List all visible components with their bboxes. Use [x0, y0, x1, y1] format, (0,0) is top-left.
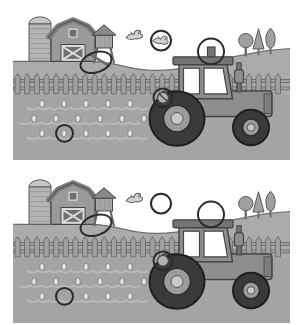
- barn-loft-window: [69, 29, 77, 37]
- tractor-grille: [264, 94, 272, 114]
- crop-sprout: [128, 130, 133, 137]
- fence-picket: [83, 237, 88, 257]
- crop-sprout: [84, 263, 89, 270]
- round-tree: [239, 33, 253, 47]
- crop-sprout: [128, 293, 133, 300]
- fence-picket: [63, 74, 68, 94]
- front-wheel-center: [247, 287, 255, 295]
- cab-rear-window: [184, 231, 200, 257]
- barn-loft-window: [69, 192, 77, 200]
- crop-sprout: [76, 278, 81, 285]
- crop-sprout: [84, 130, 89, 137]
- farm-scene-original: [13, 8, 290, 160]
- crop-sprout: [40, 130, 45, 137]
- cab-roof-stub: [208, 47, 216, 57]
- cab-rear-window: [184, 68, 200, 94]
- cab-front-window: [204, 68, 228, 94]
- fence-picket: [111, 237, 116, 257]
- silo: [29, 180, 51, 224]
- crop-sprout: [120, 278, 125, 285]
- cab-front-window: [204, 231, 228, 257]
- crop-sprout: [32, 115, 37, 122]
- crop-sprout: [106, 100, 111, 107]
- front-wheel-center: [247, 124, 255, 132]
- crop-sprout: [128, 100, 133, 107]
- crop-sprout: [32, 278, 37, 285]
- water-tower-tank: [96, 35, 113, 48]
- crop-sprout: [98, 115, 103, 122]
- fence-picket: [25, 74, 30, 94]
- fence-picket: [275, 74, 280, 94]
- crop-sprout: [62, 263, 67, 270]
- fence-picket: [150, 237, 155, 257]
- tree-trunk: [270, 210, 272, 217]
- fence-picket: [15, 74, 20, 94]
- crop-sprout: [106, 293, 111, 300]
- crop-sprout: [62, 130, 67, 137]
- tree-trunk: [270, 47, 272, 54]
- spot-the-difference-puzzle: [0, 0, 301, 325]
- crop-sprout: [40, 293, 45, 300]
- tractor-grille: [264, 257, 272, 277]
- fence-picket: [275, 237, 280, 257]
- fence-picket: [34, 74, 39, 94]
- fence-picket: [34, 237, 39, 257]
- puzzle-panel-top: [13, 8, 290, 160]
- fence-picket: [44, 237, 49, 257]
- crop-sprout: [142, 278, 147, 285]
- fence-picket: [150, 74, 155, 94]
- fence-picket: [121, 74, 126, 94]
- fence-picket: [54, 74, 59, 94]
- fence-picket: [102, 74, 107, 94]
- crop-sprout: [62, 100, 67, 107]
- tree-trunk: [245, 210, 248, 219]
- water-tower-tank: [96, 198, 113, 211]
- round-tree: [239, 196, 253, 210]
- exhaust-pipe: [237, 83, 241, 92]
- barn: [48, 183, 99, 224]
- tree-trunk: [258, 48, 260, 55]
- crop-sprout: [120, 115, 125, 122]
- exhaust-muffler: [235, 70, 244, 84]
- rear-lamp: [158, 255, 169, 266]
- fence-picket: [140, 74, 145, 94]
- crop-sprout: [40, 263, 45, 270]
- farm-scene-changed: [13, 171, 290, 323]
- crop-sprout: [106, 130, 111, 137]
- fence-picket: [73, 237, 78, 257]
- crop-sprout: [54, 278, 59, 285]
- tree-trunk: [258, 211, 260, 218]
- crop-sprout: [40, 100, 45, 107]
- puzzle-panel-bottom: [13, 171, 290, 323]
- fence-picket: [111, 74, 116, 94]
- fence-picket: [121, 237, 126, 257]
- exhaust-pipe: [237, 246, 241, 255]
- rear-wheel-center: [171, 276, 183, 288]
- exhaust-muffler: [235, 233, 244, 247]
- fence-picket: [140, 237, 145, 257]
- rear-wheel-center: [171, 113, 183, 125]
- crop-sprout: [54, 115, 59, 122]
- fence-picket: [131, 237, 136, 257]
- fence-picket: [131, 74, 136, 94]
- crop-sprout: [84, 293, 89, 300]
- silo: [29, 17, 51, 61]
- fence-picket: [15, 237, 20, 257]
- crop-sprout: [84, 100, 89, 107]
- tree-trunk: [245, 47, 248, 56]
- fence-picket: [63, 237, 68, 257]
- fence-picket: [73, 74, 78, 94]
- fence-picket: [54, 237, 59, 257]
- fence-picket: [83, 74, 88, 94]
- fence-picket: [92, 74, 97, 94]
- crop-sprout: [142, 115, 147, 122]
- crop-sprout: [106, 263, 111, 270]
- fence-picket: [25, 237, 30, 257]
- fence-picket: [102, 237, 107, 257]
- crop-sprout: [128, 263, 133, 270]
- crop-sprout: [98, 278, 103, 285]
- fence-picket: [92, 237, 97, 257]
- crop-sprout: [76, 115, 81, 122]
- fence-picket: [44, 74, 49, 94]
